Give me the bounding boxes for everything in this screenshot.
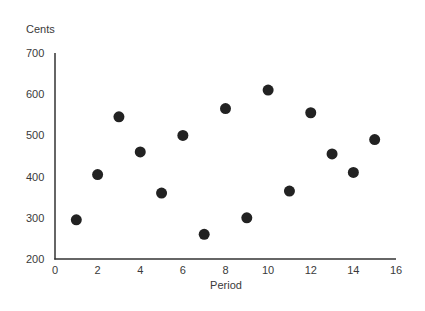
y-axis-title: Cents (26, 23, 55, 35)
x-tick-label: 14 (347, 264, 359, 276)
x-tick-label: 6 (180, 264, 186, 276)
data-point (177, 130, 188, 141)
y-tick-label: 300 (26, 212, 44, 224)
x-axis-tick-labels: 0246810121416 (52, 264, 402, 276)
y-tick-label: 200 (26, 253, 44, 265)
y-tick-label: 400 (26, 171, 44, 183)
data-point (199, 229, 210, 240)
y-tick-label: 700 (26, 47, 44, 59)
data-point (241, 212, 252, 223)
data-point (369, 134, 380, 145)
y-tick-label: 600 (26, 88, 44, 100)
scatter-chart: Cents 200300400500600700 0246810121416 P… (0, 0, 425, 311)
data-point (113, 111, 124, 122)
data-point (305, 107, 316, 118)
y-tick-label: 500 (26, 129, 44, 141)
data-point (220, 103, 231, 114)
data-point (348, 167, 359, 178)
x-tick-label: 8 (222, 264, 228, 276)
data-points (71, 85, 380, 240)
data-point (284, 186, 295, 197)
data-point (263, 85, 274, 96)
x-tick-label: 4 (137, 264, 143, 276)
data-point (135, 146, 146, 157)
x-tick-label: 0 (52, 264, 58, 276)
x-axis-title: Period (210, 279, 242, 291)
y-axis-tick-labels: 200300400500600700 (26, 47, 44, 265)
x-tick-label: 16 (390, 264, 402, 276)
data-point (327, 148, 338, 159)
x-tick-label: 10 (262, 264, 274, 276)
data-point (92, 169, 103, 180)
data-point (71, 214, 82, 225)
data-point (156, 188, 167, 199)
x-tick-label: 2 (95, 264, 101, 276)
x-tick-label: 12 (305, 264, 317, 276)
